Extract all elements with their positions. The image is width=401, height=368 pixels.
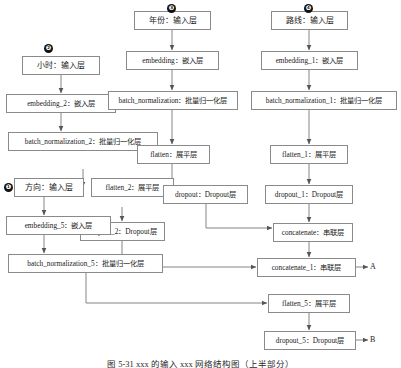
node-batch-normalization-1[interactable]: batch_normalization_1：批量归一化层 — [251, 91, 397, 110]
node-flatten[interactable]: flatten：展平层 — [137, 145, 210, 164]
node-label: embedding_5：嵌入层 — [25, 221, 93, 228]
node-embedding-2[interactable]: embedding_2：嵌入层 — [6, 94, 116, 113]
node-label: 小时：输入层 — [37, 61, 85, 69]
node-label: 方向：输入层 — [25, 183, 73, 191]
node-concatenate-1[interactable]: concatenate_1：串联层 — [257, 258, 356, 277]
node-label: 路线：输入层 — [286, 16, 334, 24]
node-embedding-1[interactable]: embedding_1：嵌入层 — [261, 51, 358, 70]
node-dropout-5[interactable]: dropout_5：Dropout层 — [264, 331, 356, 350]
node-label: embedding_1：嵌入层 — [276, 56, 344, 63]
node-label: batch_normalization_1：批量归一化层 — [266, 96, 382, 103]
node-label: batch_normalization_5：批量归一化层 — [27, 259, 143, 266]
node-label: flatten：展平层 — [150, 150, 197, 157]
marker-2: ❷ — [44, 44, 53, 53]
node-label: embedding：嵌入层 — [142, 56, 202, 63]
output-label-b: B — [370, 335, 375, 344]
node-embedding[interactable]: embedding：嵌入层 — [126, 51, 219, 70]
node-input-route[interactable]: 路线：输入层 — [271, 11, 348, 30]
figure-caption: 图 5-31 xxx 的输入 xxx 网络结构图（上半部分） — [0, 357, 401, 368]
network-structure-diagram: ❶ ❷ ❸ ❹ 小时：输入层 embedding_2：嵌入层 batch_nor… — [0, 0, 401, 368]
node-label: flatten_5：展平层 — [282, 299, 336, 306]
node-label: flatten_1：展平层 — [282, 150, 336, 157]
node-label: dropout：Dropout层 — [175, 190, 236, 197]
node-dropout[interactable]: dropout：Dropout层 — [163, 185, 248, 204]
node-flatten-2[interactable]: flatten_2：展平层 — [91, 178, 174, 197]
node-batch-normalization[interactable]: batch_normalization：批量归一化层 — [108, 91, 238, 110]
node-input-direction[interactable]: 方向：输入层 — [14, 178, 84, 197]
node-label: dropout_5：Dropout层 — [276, 336, 344, 343]
node-label: flatten_2：展平层 — [106, 183, 160, 190]
node-label: 年份：输入层 — [149, 16, 197, 24]
node-flatten-1[interactable]: flatten_1：展平层 — [270, 145, 348, 164]
node-embedding-5[interactable]: embedding_5：嵌入层 — [6, 216, 111, 235]
node-label: concatenate：串联层 — [282, 228, 344, 235]
node-label: batch_normalization_2：批量归一化层 — [25, 137, 141, 144]
node-flatten-5[interactable]: flatten_5：展平层 — [268, 294, 350, 313]
node-batch-normalization-5[interactable]: batch_normalization_5：批量归一化层 — [8, 254, 163, 273]
node-concatenate[interactable]: concatenate：串联层 — [273, 223, 353, 242]
node-label: dropout_1：Dropout层 — [275, 190, 343, 197]
node-label: batch_normalization：批量归一化层 — [119, 96, 228, 103]
marker-1: ❶ — [4, 183, 13, 192]
output-label-a: A — [370, 262, 376, 271]
node-label: concatenate_1：串联层 — [272, 263, 342, 270]
node-label: embedding_2：嵌入层 — [27, 99, 95, 106]
node-batch-normalization-2[interactable]: batch_normalization_2：批量归一化层 — [8, 132, 158, 151]
marker-4: ❹ — [304, 4, 313, 13]
node-input-hour[interactable]: 小时：输入层 — [22, 56, 100, 75]
node-dropout-1[interactable]: dropout_1：Dropout层 — [265, 185, 353, 204]
marker-3: ❸ — [167, 4, 176, 13]
node-input-year[interactable]: 年份：输入层 — [134, 11, 211, 30]
